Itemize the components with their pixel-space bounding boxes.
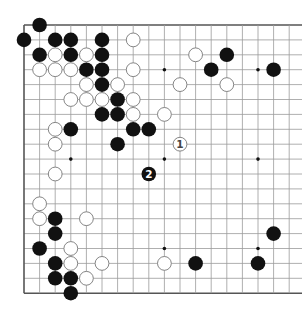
white-stone[interactable] [158, 257, 172, 271]
move-number-label: 1 [176, 138, 183, 150]
black-stone[interactable] [110, 92, 125, 107]
white-stone[interactable] [111, 78, 125, 92]
black-stone[interactable] [110, 137, 125, 152]
white-stone[interactable] [189, 48, 203, 62]
black-stone[interactable] [251, 256, 266, 271]
black-stone[interactable] [95, 33, 110, 48]
star-point-icon [256, 247, 260, 251]
black-stone[interactable] [266, 62, 281, 77]
black-stone[interactable] [142, 122, 157, 137]
black-stone[interactable] [64, 33, 79, 48]
white-stone[interactable] [64, 63, 78, 77]
black-stone[interactable] [48, 226, 63, 241]
star-point-icon [163, 157, 167, 161]
black-stone[interactable] [17, 33, 32, 48]
black-stone[interactable] [126, 122, 141, 137]
black-stone[interactable] [48, 271, 63, 286]
white-stone[interactable] [80, 78, 94, 92]
white-stone[interactable] [80, 48, 94, 62]
black-stone[interactable] [95, 62, 110, 77]
black-stone[interactable] [64, 48, 79, 63]
white-stone[interactable] [126, 93, 140, 107]
black-stone[interactable] [32, 18, 47, 33]
white-stone[interactable] [126, 63, 140, 77]
white-stone[interactable] [48, 48, 62, 62]
star-point-icon [69, 157, 73, 161]
go-board[interactable]: 12 [0, 0, 302, 324]
white-stone[interactable] [64, 93, 78, 107]
black-stone[interactable] [110, 107, 125, 122]
black-stone[interactable] [188, 256, 203, 271]
white-stone[interactable] [80, 212, 94, 226]
black-stone[interactable] [48, 256, 63, 271]
black-stone[interactable] [32, 241, 47, 256]
white-stone[interactable] [48, 63, 62, 77]
star-point-icon [163, 68, 167, 72]
black-stone[interactable] [64, 271, 79, 286]
white-stone[interactable] [33, 197, 47, 211]
white-stone[interactable] [95, 257, 109, 271]
white-stone[interactable] [158, 108, 172, 122]
star-point-icon [256, 157, 260, 161]
white-stone[interactable] [126, 33, 140, 47]
star-point-icon [256, 68, 260, 72]
white-stone[interactable] [80, 93, 94, 107]
black-stone[interactable] [95, 107, 110, 122]
white-stone[interactable] [48, 122, 62, 136]
black-stone[interactable] [204, 62, 219, 77]
black-stone[interactable] [64, 286, 79, 301]
white-stone[interactable] [48, 137, 62, 151]
white-stone[interactable] [95, 93, 109, 107]
black-stone[interactable] [48, 33, 63, 48]
black-stone[interactable] [266, 226, 281, 241]
black-stone[interactable] [95, 77, 110, 92]
white-stone[interactable] [33, 212, 47, 226]
white-stone[interactable] [64, 257, 78, 271]
white-stone[interactable] [48, 167, 62, 181]
black-stone[interactable] [32, 48, 47, 63]
white-stone[interactable] [80, 271, 94, 285]
white-stone[interactable] [126, 108, 140, 122]
white-stone[interactable] [33, 63, 47, 77]
black-stone[interactable] [95, 48, 110, 63]
black-stone[interactable] [48, 211, 63, 226]
white-stone[interactable] [220, 78, 234, 92]
black-stone[interactable] [79, 62, 94, 77]
white-stone[interactable] [64, 242, 78, 256]
move-number-label: 2 [145, 168, 152, 180]
black-stone[interactable] [220, 48, 235, 63]
go-board-diagram: 12 [0, 0, 302, 324]
white-stone[interactable] [173, 78, 187, 92]
star-point-icon [163, 247, 167, 251]
black-stone[interactable] [64, 122, 79, 137]
